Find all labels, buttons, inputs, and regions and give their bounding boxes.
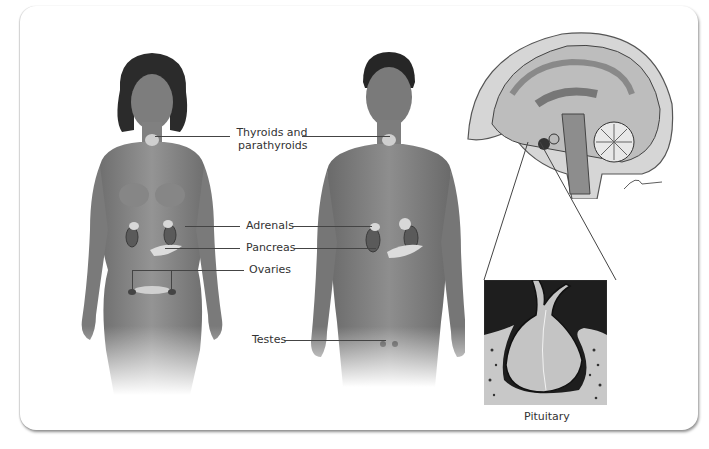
thyroid-leader-right xyxy=(302,136,390,137)
zoom-connector xyxy=(480,140,620,282)
ovaries-leader-right-drop xyxy=(171,270,172,292)
pancreas-label: Pancreas xyxy=(246,241,295,254)
adrenals-leader-left xyxy=(185,226,240,227)
ovaries-leader xyxy=(132,270,244,271)
pancreas-leader-right xyxy=(294,248,376,249)
thyroid-leader-left xyxy=(155,136,230,137)
ovaries-label: Ovaries xyxy=(249,263,291,276)
male-figure xyxy=(305,52,465,387)
thyroids-label: Thyroids and parathyroids xyxy=(236,126,308,152)
adrenals-label: Adrenals xyxy=(246,219,294,232)
pancreas-leader-left xyxy=(165,248,240,249)
testes-leader xyxy=(284,340,386,341)
female-figure xyxy=(70,50,240,395)
pituitary-detail xyxy=(484,280,607,405)
ovaries-leader-left-drop xyxy=(132,270,133,292)
adrenals-leader-right xyxy=(292,226,372,227)
testes-label: Testes xyxy=(252,333,286,346)
pituitary-label: Pituitary xyxy=(524,410,570,423)
